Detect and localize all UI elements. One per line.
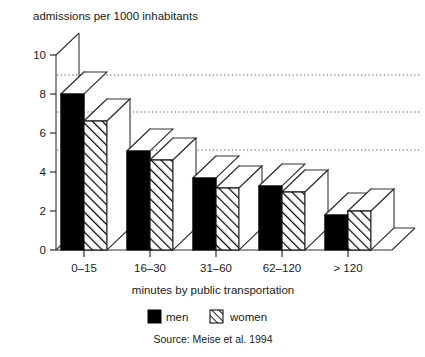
bar-men-front-face (325, 215, 348, 250)
y-tick-2: 2 (40, 205, 46, 217)
bar-men-front-face (193, 178, 216, 250)
y-tick-10: 10 (33, 49, 46, 61)
bar-men-front-face (61, 94, 84, 250)
bar-women-0-15 (84, 99, 130, 250)
bar-men-front-face (259, 186, 282, 250)
y-tick-0: 0 (40, 244, 46, 256)
x-label-31-60: 31–60 (200, 262, 232, 274)
bar-women-front-face (282, 192, 305, 250)
legend-women-label: women (229, 311, 267, 323)
legend-men-swatch-icon (148, 310, 161, 323)
y-tick-4: 4 (40, 166, 47, 178)
y-axis-title: admissions per 1000 inhabitants (33, 10, 198, 22)
legend-men-label: men (166, 311, 188, 323)
bar-women-16-30 (150, 138, 196, 250)
chart-page: admissions per 1000 inhabitants (0, 0, 425, 357)
x-label-16-30: 16–30 (134, 262, 166, 274)
bar-chart: admissions per 1000 inhabitants (0, 0, 425, 357)
x-label-over-120: > 120 (333, 262, 362, 274)
x-label-62-120: 62–120 (263, 262, 301, 274)
y-tick-6: 6 (40, 127, 46, 139)
x-label-0-15: 0–15 (71, 262, 97, 274)
bar-women-front-face (150, 160, 173, 250)
bar-women-front-face (216, 188, 239, 250)
x-axis-title: minutes by public transportation (132, 284, 294, 296)
y-tick-8: 8 (40, 88, 46, 100)
legend-women-swatch-icon (210, 310, 223, 323)
bar-women-front-face (84, 121, 107, 250)
source-note: Source: Meise et al. 1994 (153, 333, 272, 345)
bar-men-front-face (127, 151, 150, 250)
bar-women-front-face (348, 211, 371, 250)
